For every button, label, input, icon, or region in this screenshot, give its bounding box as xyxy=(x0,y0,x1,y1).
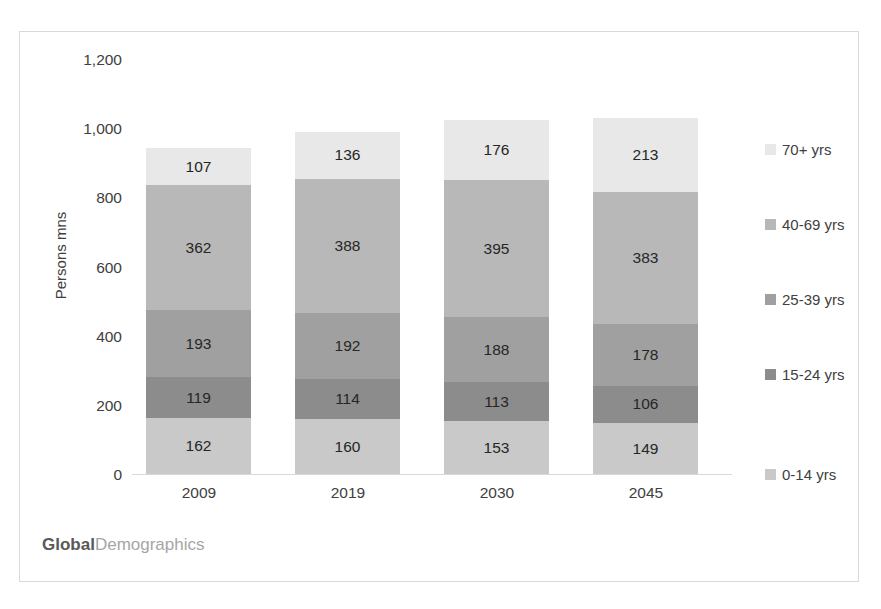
watermark: GlobalDemographics xyxy=(42,535,205,555)
legend-swatch-icon xyxy=(765,219,776,230)
segment-value: 388 xyxy=(335,238,361,254)
segment-2045-0-14[interactable]: 149 xyxy=(593,423,698,475)
x-label-2030: 2030 xyxy=(417,484,577,502)
segment-value: 192 xyxy=(335,338,361,354)
segment-value: 149 xyxy=(633,441,659,457)
segment-value: 188 xyxy=(484,342,510,358)
bar-2030[interactable]: 153 113 188 395 176 xyxy=(444,120,549,474)
segment-2030-0-14[interactable]: 153 xyxy=(444,421,549,474)
segment-2045-40-69[interactable]: 383 xyxy=(593,192,698,324)
legend-swatch-icon xyxy=(765,469,776,480)
segment-2009-15-24[interactable]: 119 xyxy=(146,377,251,418)
segment-2030-15-24[interactable]: 113 xyxy=(444,382,549,421)
segment-value: 162 xyxy=(186,438,212,454)
y-tick-1200: 1,200 xyxy=(37,52,122,68)
x-label-2019: 2019 xyxy=(268,484,428,502)
legend-label: 25-39 yrs xyxy=(782,291,845,308)
legend-label: 0-14 yrs xyxy=(782,466,836,483)
segment-2045-70plus[interactable]: 213 xyxy=(593,118,698,192)
legend-label: 70+ yrs xyxy=(782,141,832,158)
x-label-2009: 2009 xyxy=(119,484,279,502)
segment-value: 383 xyxy=(633,250,659,266)
y-tick-0: 0 xyxy=(37,467,122,483)
segment-value: 113 xyxy=(484,394,509,410)
legend: 70+ yrs 40-69 yrs 25-39 yrs 15-24 yrs 0-… xyxy=(765,32,875,583)
segment-2030-40-69[interactable]: 395 xyxy=(444,180,549,317)
bar-2009[interactable]: 162 119 193 362 107 xyxy=(146,148,251,474)
segment-2019-25-39[interactable]: 192 xyxy=(295,313,400,379)
segment-value: 119 xyxy=(186,390,211,406)
legend-item-25-39[interactable]: 25-39 yrs xyxy=(765,291,845,308)
segment-2019-15-24[interactable]: 114 xyxy=(295,379,400,418)
y-tick-600: 600 xyxy=(37,260,122,276)
bar-2019[interactable]: 160 114 192 388 136 xyxy=(295,132,400,474)
x-axis-line xyxy=(132,474,732,475)
segment-value: 362 xyxy=(186,240,212,256)
legend-item-0-14[interactable]: 0-14 yrs xyxy=(765,466,836,483)
legend-swatch-icon xyxy=(765,144,776,155)
y-tick-800: 800 xyxy=(37,190,122,206)
segment-value: 213 xyxy=(633,147,659,163)
legend-swatch-icon xyxy=(765,294,776,305)
segment-2045-15-24[interactable]: 106 xyxy=(593,386,698,423)
segment-value: 114 xyxy=(335,391,360,407)
segment-2019-70plus[interactable]: 136 xyxy=(295,132,400,179)
segment-value: 193 xyxy=(186,336,212,352)
legend-item-15-24[interactable]: 15-24 yrs xyxy=(765,366,845,383)
segment-value: 178 xyxy=(633,347,659,363)
watermark-brand: Global xyxy=(42,535,95,554)
chart-frame: Persons mns 1,200 1,000 800 600 400 200 … xyxy=(19,31,859,582)
legend-swatch-icon xyxy=(765,369,776,380)
y-tick-400: 400 xyxy=(37,329,122,345)
x-label-2045: 2045 xyxy=(566,484,726,502)
segment-2009-0-14[interactable]: 162 xyxy=(146,418,251,474)
y-axis-title: Persons mns xyxy=(52,186,69,326)
legend-item-40-69[interactable]: 40-69 yrs xyxy=(765,216,845,233)
segment-2019-40-69[interactable]: 388 xyxy=(295,179,400,313)
plot-area: 1,200 1,000 800 600 400 200 0 162 119 19… xyxy=(132,32,732,583)
watermark-suffix: Demographics xyxy=(95,535,205,554)
segment-value: 106 xyxy=(633,396,659,412)
segment-2009-70plus[interactable]: 107 xyxy=(146,148,251,185)
segment-value: 107 xyxy=(186,159,212,175)
segment-value: 395 xyxy=(484,241,510,257)
legend-label: 40-69 yrs xyxy=(782,216,845,233)
segment-value: 136 xyxy=(335,147,361,163)
legend-item-70plus[interactable]: 70+ yrs xyxy=(765,141,832,158)
segment-2019-0-14[interactable]: 160 xyxy=(295,419,400,474)
segment-value: 153 xyxy=(484,440,510,456)
segment-value: 160 xyxy=(335,439,361,455)
legend-label: 15-24 yrs xyxy=(782,366,845,383)
segment-2045-25-39[interactable]: 178 xyxy=(593,324,698,386)
y-tick-200: 200 xyxy=(37,398,122,414)
segment-2009-40-69[interactable]: 362 xyxy=(146,185,251,310)
segment-2009-25-39[interactable]: 193 xyxy=(146,310,251,377)
segment-2030-70plus[interactable]: 176 xyxy=(444,120,549,181)
bar-2045[interactable]: 149 106 178 383 213 xyxy=(593,118,698,474)
segment-value: 176 xyxy=(484,142,510,158)
segment-2030-25-39[interactable]: 188 xyxy=(444,317,549,382)
y-tick-1000: 1,000 xyxy=(37,121,122,137)
